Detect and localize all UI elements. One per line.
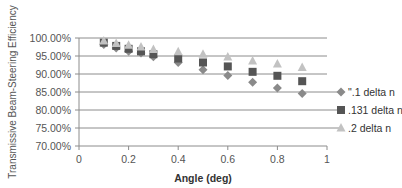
- data-point-square: [174, 55, 182, 63]
- y-tick-label: 70.00%: [35, 140, 71, 152]
- y-tick-label: 80.00%: [35, 104, 71, 116]
- data-point-triangle: [124, 40, 133, 49]
- data-point-diamond: [248, 78, 257, 87]
- legend-label: .131 delta n: [348, 104, 402, 116]
- data-point-triangle: [174, 47, 183, 56]
- x-tick-label: 0.8: [270, 153, 285, 165]
- y-tick-label: 100.00%: [30, 32, 71, 44]
- data-point-diamond: [298, 89, 307, 98]
- x-tick-label: 0.2: [121, 153, 136, 165]
- data-point-square: [199, 58, 207, 66]
- legend-label: ".1 delta n: [348, 86, 395, 98]
- data-point-triangle: [273, 59, 282, 68]
- x-tick-label: 1: [324, 153, 330, 165]
- data-point-square: [224, 62, 232, 70]
- x-tick-label: 0: [76, 153, 82, 165]
- data-point-square: [249, 68, 257, 76]
- data-point-triangle: [149, 45, 158, 54]
- data-point-triangle: [298, 63, 307, 71]
- data-point-diamond: [273, 84, 282, 93]
- data-point-square: [298, 77, 306, 85]
- legend-marker-square: [337, 106, 345, 114]
- y-tick-label: 90.00%: [35, 68, 71, 80]
- x-axis-label: Angle (deg): [174, 172, 232, 184]
- y-axis-ticks: 70.00%75.00%80.00%85.00%90.00%95.00%100.…: [30, 32, 71, 152]
- data-point-square: [273, 72, 281, 80]
- x-tick-label: 0.4: [171, 153, 186, 165]
- data-point-diamond: [223, 71, 232, 80]
- data-points: [99, 36, 306, 98]
- y-tick-label: 75.00%: [35, 122, 71, 134]
- x-axis-ticks: 00.20.40.60.81: [76, 153, 330, 165]
- legend-marker-diamond: [337, 88, 346, 97]
- x-tick-label: 0.6: [220, 153, 235, 165]
- legend: ".1 delta n.131 delta n.2 delta n: [327, 86, 402, 134]
- data-point-triangle: [137, 42, 146, 51]
- y-tick-label: 95.00%: [35, 50, 71, 62]
- y-tick-label: 85.00%: [35, 86, 71, 98]
- data-point-triangle: [248, 56, 257, 65]
- legend-marker-triangle: [337, 123, 346, 132]
- data-point-diamond: [199, 65, 208, 74]
- y-axis-label: Transmissive Beam-Steering Efficiency: [7, 5, 18, 178]
- data-point-triangle: [199, 49, 208, 58]
- efficiency-scatter-chart: 70.00%75.00%80.00%85.00%90.00%95.00%100.…: [0, 0, 402, 188]
- legend-label: .2 delta n: [348, 122, 391, 134]
